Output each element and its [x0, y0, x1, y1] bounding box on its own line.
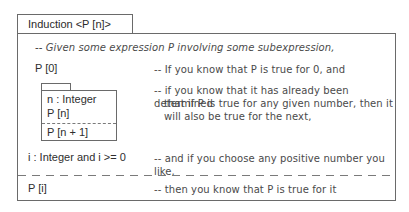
nested-divider [42, 123, 116, 124]
intro-note: -- Given some expression P involving som… [35, 41, 335, 54]
inductive-step-note-line-2: that if P is true for any given number, … [164, 97, 393, 110]
conclusion-note: -- then you know that P is true for it [154, 183, 336, 196]
base-case-expression: P [0] [35, 62, 57, 74]
base-case-note: -- If you know that P is true for 0, and [154, 63, 345, 76]
inductive-step-note-line-3: will also be true for the next, [164, 110, 311, 123]
nested-conclusion: P [n + 1] [47, 126, 88, 138]
schema-divider [18, 175, 395, 176]
choice-expression: i : Integer and i >= 0 [28, 151, 126, 163]
conclusion-expression: P [i] [28, 182, 47, 194]
nested-declaration-n: n : Integer [47, 93, 97, 105]
nested-declaration-pn: P [n] [47, 107, 69, 119]
schema-title: Induction <P [n]> [28, 18, 111, 30]
schema-title-tab: Induction <P [n]> [17, 14, 133, 34]
